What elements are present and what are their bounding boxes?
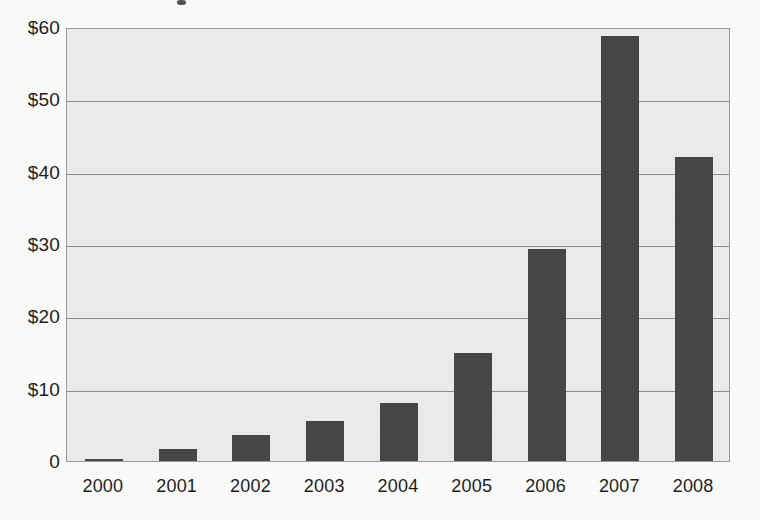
x-tick-label-2004: 2004: [363, 476, 433, 497]
y-tick-label: $30: [2, 234, 60, 256]
bar-2006[interactable]: [528, 249, 566, 461]
x-tick-label-2000: 2000: [68, 476, 138, 497]
bar-2004[interactable]: [380, 403, 418, 461]
x-tick-label-2003: 2003: [289, 476, 359, 497]
x-tick-label-2005: 2005: [437, 476, 507, 497]
bar-2008[interactable]: [675, 157, 713, 461]
bar-2007[interactable]: [601, 36, 639, 461]
y-tick-label: $40: [2, 162, 60, 184]
y-tick-label: $10: [2, 379, 60, 401]
plot-area: [66, 28, 730, 462]
y-axis: $60$50$40$30$20$100: [0, 0, 60, 520]
title-remnant-speck: [177, 0, 186, 5]
bar-2001[interactable]: [159, 449, 197, 461]
bar-2003[interactable]: [306, 421, 344, 461]
bar-2000[interactable]: [85, 459, 123, 461]
plot-inner: [67, 29, 729, 461]
bar-2005[interactable]: [454, 353, 492, 462]
bar-2002[interactable]: [232, 435, 270, 461]
y-tick-label: $20: [2, 306, 60, 328]
x-tick-label-2007: 2007: [584, 476, 654, 497]
y-tick-label: 0: [2, 451, 60, 473]
bar-chart: $60$50$40$30$20$100 20002001200220032004…: [0, 0, 760, 520]
page-background: $60$50$40$30$20$100 20002001200220032004…: [0, 0, 760, 520]
x-tick-label-2001: 2001: [142, 476, 212, 497]
x-tick-label-2008: 2008: [658, 476, 728, 497]
y-tick-label: $60: [2, 17, 60, 39]
x-tick-label-2006: 2006: [511, 476, 581, 497]
y-tick-label: $50: [2, 89, 60, 111]
x-tick-label-2002: 2002: [215, 476, 285, 497]
